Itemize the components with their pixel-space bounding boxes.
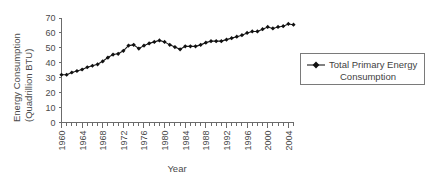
series-total-primary-energy-consumption bbox=[59, 22, 295, 77]
data-point bbox=[235, 35, 239, 39]
y-tick-label: 40 bbox=[45, 58, 55, 68]
y-axis-title: Energy Consumption (Quadrillion BTU) bbox=[11, 33, 34, 122]
data-point bbox=[85, 65, 89, 69]
y-tick-label: 20 bbox=[45, 88, 55, 98]
data-point bbox=[219, 39, 223, 43]
x-tick-label: 1988 bbox=[201, 131, 211, 151]
data-point bbox=[230, 36, 234, 40]
data-point bbox=[281, 24, 285, 28]
legend[interactable]: Total Primary Energy Consumption bbox=[301, 54, 425, 85]
data-point bbox=[173, 45, 177, 49]
data-point bbox=[65, 73, 69, 77]
x-tick-label: 1996 bbox=[243, 131, 253, 151]
x-tick-label: 1976 bbox=[139, 131, 149, 151]
y-tick-label-group: 010203040506070 bbox=[45, 13, 55, 128]
x-tick-label: 1992 bbox=[222, 131, 232, 151]
x-tick-label-group: 1960196419681972197619801984198819921996… bbox=[57, 131, 294, 151]
data-point bbox=[59, 73, 63, 77]
data-point bbox=[193, 44, 197, 48]
y-tick-label: 60 bbox=[45, 28, 55, 38]
data-point bbox=[90, 64, 94, 68]
x-tick-label: 1964 bbox=[78, 131, 88, 151]
data-point bbox=[204, 41, 208, 45]
data-point bbox=[240, 33, 244, 37]
x-tick-label: 2000 bbox=[263, 131, 273, 151]
data-point bbox=[245, 31, 249, 35]
legend-label-line2: Consumption bbox=[340, 71, 396, 82]
data-point bbox=[266, 25, 270, 29]
x-tick-label: 1984 bbox=[181, 131, 191, 151]
energy-consumption-line-chart: Energy Consumption (Quadrillion BTU) 010… bbox=[0, 0, 433, 182]
data-point bbox=[286, 22, 290, 26]
data-point bbox=[199, 43, 203, 47]
data-point bbox=[75, 69, 79, 73]
data-point bbox=[255, 29, 259, 33]
x-tick-label: 1960 bbox=[57, 131, 67, 151]
y-tick-label: 50 bbox=[45, 43, 55, 53]
data-point bbox=[271, 26, 275, 30]
x-tick-label: 1968 bbox=[98, 131, 108, 151]
x-tick-label: 2004 bbox=[284, 131, 294, 151]
data-point bbox=[291, 23, 295, 27]
x-tick-group bbox=[62, 123, 294, 128]
data-point bbox=[152, 40, 156, 44]
data-point bbox=[214, 39, 218, 43]
data-point bbox=[157, 38, 161, 42]
data-point bbox=[250, 29, 254, 33]
x-axis-title: Year bbox=[167, 163, 186, 174]
y-tick-label: 70 bbox=[45, 13, 55, 23]
y-axis-title-line2: (Quadrillion BTU) bbox=[23, 49, 34, 122]
data-point bbox=[80, 67, 84, 71]
y-tick-label: 10 bbox=[45, 103, 55, 113]
x-tick-label: 1980 bbox=[160, 131, 170, 151]
data-point bbox=[147, 41, 151, 45]
y-tick-label: 0 bbox=[50, 118, 55, 128]
data-point bbox=[224, 38, 228, 42]
y-tick-label: 30 bbox=[45, 73, 55, 83]
x-tick-label: 1972 bbox=[119, 131, 129, 151]
y-axis-title-line1: Energy Consumption bbox=[11, 33, 22, 122]
data-point bbox=[70, 70, 74, 74]
legend-label-line1: Total Primary Energy bbox=[329, 59, 417, 70]
data-point bbox=[209, 39, 213, 43]
data-point bbox=[260, 27, 264, 31]
data-point bbox=[188, 44, 192, 48]
data-point bbox=[276, 25, 280, 29]
